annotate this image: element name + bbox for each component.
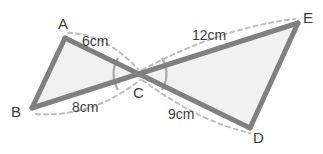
geometry-figure: A B C D E 6cm 8cm 12cm 9cm — [0, 0, 323, 154]
vertex-label-c: C — [133, 85, 144, 100]
length-label-ac: 6cm — [82, 34, 108, 48]
geometry-canvas — [0, 0, 323, 154]
length-label-ce: 12cm — [192, 28, 226, 42]
vertex-label-d: D — [253, 130, 264, 145]
length-label-bc: 8cm — [72, 100, 98, 114]
vertex-label-e: E — [303, 10, 313, 25]
vertex-label-b: B — [11, 104, 21, 119]
length-label-cd: 9cm — [168, 107, 194, 121]
vertex-label-a: A — [58, 16, 68, 31]
